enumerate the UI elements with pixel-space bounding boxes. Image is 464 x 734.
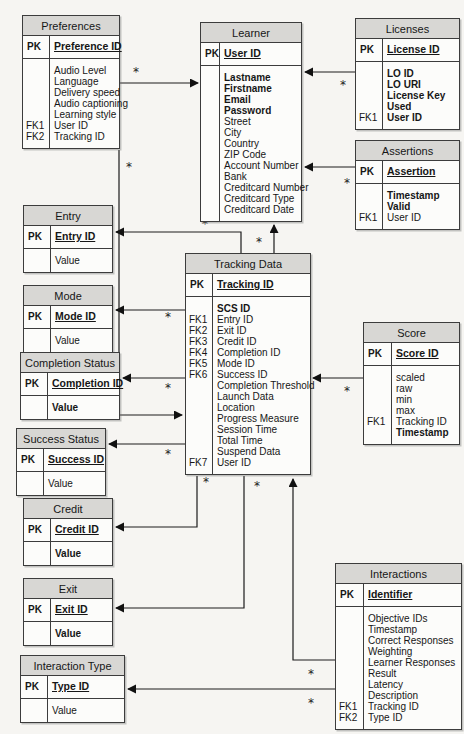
attribute-name: Correct Responses xyxy=(363,635,454,646)
fk-tag xyxy=(186,435,212,446)
fk-tag xyxy=(356,190,382,201)
fk-tag: FK4 xyxy=(186,347,212,358)
attribute-row: Timestamp xyxy=(364,427,459,438)
primary-key-row: PKIdentifier xyxy=(336,584,461,607)
pk-attribute: Type ID xyxy=(47,681,89,692)
fk-tag xyxy=(201,193,219,204)
fk-tag: FK1 xyxy=(364,416,391,427)
primary-key-row: PKCompletion ID xyxy=(21,373,119,396)
attribute-row: Result xyxy=(336,668,461,679)
entity-preferences: PreferencesPKPreference IDAudio LevelLan… xyxy=(22,15,120,149)
fk-tag xyxy=(364,383,391,394)
entity-rows: PKAssertionTimestampValidFK1User ID xyxy=(356,161,459,229)
primary-key-row: PKPreference ID xyxy=(23,36,119,59)
fk-tag xyxy=(201,83,219,94)
fk-tag xyxy=(186,402,212,413)
attribute-row: FK2Tracking ID xyxy=(23,131,119,142)
attribute-row: Timestamp xyxy=(336,624,461,635)
attribute-name: Location xyxy=(212,402,255,413)
attribute-row: FK1Tracking ID xyxy=(336,701,461,712)
fk-tag xyxy=(201,171,219,182)
attribute-row: Account Number xyxy=(201,160,301,171)
attribute-list: TimestampValidFK1User ID xyxy=(356,184,459,229)
fk-tag xyxy=(336,646,363,657)
key-column-divider xyxy=(391,343,392,444)
attribute-list: LastnameFirstnameEmailPasswordStreetCity… xyxy=(201,66,301,221)
attribute-row: FK2Type ID xyxy=(336,712,461,723)
pk-attribute: Mode ID xyxy=(50,311,96,322)
attribute-row: Suspend Data xyxy=(186,446,310,457)
entity-rows: PKPreference IDAudio LevelLanguageDelive… xyxy=(23,36,119,148)
entity-title: Completion Status xyxy=(21,353,119,373)
attribute-row: Value xyxy=(17,478,105,489)
pk-tag: PK xyxy=(21,378,47,389)
attribute-row: SCS ID xyxy=(186,303,310,314)
attribute-row: Timestamp xyxy=(356,190,459,201)
entity-learner: LearnerPKUser IDLastnameFirstnameEmailPa… xyxy=(200,22,302,222)
fk-tag: FK3 xyxy=(186,336,212,347)
attribute-name: Value xyxy=(50,628,81,639)
key-column-divider xyxy=(382,39,383,129)
attribute-row: Learning style xyxy=(23,109,119,120)
attribute-name: User ID xyxy=(382,112,422,123)
fk-tag xyxy=(186,413,212,424)
entity-title: Success Status xyxy=(17,429,105,449)
key-column-divider xyxy=(47,373,48,419)
attribute-name: Learning style xyxy=(49,109,116,120)
attribute-name: Success ID xyxy=(212,369,268,380)
attribute-name: ZIP Code xyxy=(219,149,266,160)
connector-tracking_data-to-entry xyxy=(116,232,241,253)
pk-attribute: Identifier xyxy=(363,589,412,600)
fk-tag: FK2 xyxy=(186,325,212,336)
fk-tag: FK1 xyxy=(356,212,382,223)
fk-tag xyxy=(336,635,363,646)
attribute-list: Value xyxy=(24,329,112,352)
attribute-row: Objective IDs xyxy=(336,613,461,624)
entity-entry: EntryPKEntry IDValue xyxy=(23,205,113,273)
entity-title: Exit xyxy=(24,579,112,599)
attribute-name: User ID xyxy=(212,457,251,468)
attribute-name: Total Time xyxy=(212,435,263,446)
fk-tag xyxy=(201,105,219,116)
attribute-row: Progress Measure xyxy=(186,413,310,424)
attribute-name: Value xyxy=(43,478,73,489)
attribute-list: Value xyxy=(24,622,112,645)
primary-key-row: PKMode ID xyxy=(24,306,112,329)
pk-attribute: Completion ID xyxy=(47,378,123,389)
attribute-name: Audio captioning xyxy=(49,98,128,109)
entity-rows: PKTracking IDSCS IDFK1Entry IDFK2Exit ID… xyxy=(186,274,310,474)
attribute-name: Weighting xyxy=(363,646,412,657)
fk-tag xyxy=(364,427,391,438)
many-cardinality-asterisk: * xyxy=(308,667,314,681)
fk-tag xyxy=(186,380,212,391)
entity-score: ScorePKScore IDscaledrawminmaxFK1Trackin… xyxy=(363,322,460,445)
fk-tag: FK1 xyxy=(186,314,212,325)
entity-title: Entry xyxy=(24,206,112,226)
attribute-name: Credit ID xyxy=(212,336,256,347)
connector-interactions-to-tracking_data xyxy=(293,479,335,660)
attribute-row: Country xyxy=(201,138,301,149)
key-column-divider xyxy=(50,226,51,272)
fk-tag xyxy=(336,624,363,635)
pk-tag: PK xyxy=(24,604,50,615)
pk-tag: PK xyxy=(24,311,50,322)
attribute-row: FK1User ID xyxy=(356,212,459,223)
attribute-name: Mode ID xyxy=(212,358,255,369)
attribute-row: License Key xyxy=(356,90,459,101)
entity-rows: PKLicense IDLO IDLO URILicense KeyUsedFK… xyxy=(356,39,459,129)
fk-tag xyxy=(336,657,363,668)
entity-exit: ExitPKExit IDValue xyxy=(23,578,113,646)
attribute-name: Delivery speed xyxy=(49,87,120,98)
pk-attribute: Score ID xyxy=(391,348,439,359)
attribute-row: Total Time xyxy=(186,435,310,446)
entity-completion_status: Completion StatusPKCompletion IDValue xyxy=(20,352,120,420)
fk-tag xyxy=(24,628,50,639)
attribute-name: Tracking ID xyxy=(391,416,447,427)
attribute-name: Bank xyxy=(219,171,247,182)
attribute-name: Value xyxy=(50,335,80,346)
attribute-list: Value xyxy=(24,249,112,272)
entity-assertions: AssertionsPKAssertionTimestampValidFK1Us… xyxy=(355,140,460,230)
fk-tag xyxy=(201,204,219,215)
entity-licenses: LicensesPKLicense IDLO IDLO URILicense K… xyxy=(355,18,460,130)
erd-canvas: ************** PreferencesPKPreference I… xyxy=(0,0,464,734)
